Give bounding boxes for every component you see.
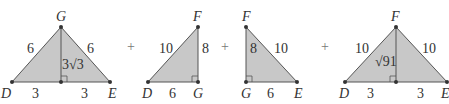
triangle-DGF: F D G 10 8 6 <box>141 9 209 101</box>
vertex-dot <box>10 80 14 84</box>
vertex-label-G: G <box>193 86 203 101</box>
vertex-label-D: D <box>0 86 11 101</box>
vertex-dot <box>244 25 248 29</box>
side-label-left: 10 <box>355 41 369 56</box>
triangle-DFE: F D E 10 10 √91 3 3 <box>338 9 449 101</box>
vertex-label-G: G <box>56 9 66 24</box>
triangle-DGE: G D E 6 6 3√3 3 3 <box>0 9 117 101</box>
side-label-left: 6 <box>27 41 34 56</box>
vertex-dot <box>394 80 398 84</box>
vertex-label-F: F <box>241 9 251 24</box>
plus-operator: + <box>321 39 329 54</box>
base-label: 6 <box>169 86 176 101</box>
vertex-label-D: D <box>141 86 152 101</box>
vertex-dot <box>343 80 347 84</box>
vertex-dot <box>196 80 200 84</box>
vertex-dot <box>196 25 200 29</box>
vertex-label-E: E <box>107 86 117 101</box>
vertex-dot <box>59 80 63 84</box>
vertex-label-E: E <box>440 86 449 101</box>
plus-operator: + <box>221 39 229 54</box>
vertex-label-F: F <box>192 9 202 24</box>
triangle-DGF-shape <box>148 27 198 82</box>
vertex-dot <box>244 80 248 84</box>
vertex-label-E: E <box>293 86 303 101</box>
vertex-dot <box>445 80 449 84</box>
triangle-FGE: F G E 8 10 6 <box>241 9 303 101</box>
vertex-label-D: D <box>338 86 349 101</box>
hypotenuse-label: 10 <box>159 41 173 56</box>
altitude-label: 3√3 <box>62 57 84 72</box>
vertex-dot <box>146 80 150 84</box>
hypotenuse-label: 10 <box>274 41 288 56</box>
vertical-side-label: 8 <box>202 41 209 56</box>
altitude-label: √91 <box>375 54 397 69</box>
vertex-dot <box>108 80 112 84</box>
base-label-right: 3 <box>417 86 424 101</box>
vertex-dot <box>59 25 63 29</box>
vertex-dot <box>394 25 398 29</box>
base-label: 6 <box>267 86 274 101</box>
vertex-dot <box>295 80 299 84</box>
vertical-side-label: 8 <box>250 41 257 56</box>
side-label-right: 6 <box>87 41 94 56</box>
base-label-left: 3 <box>367 86 374 101</box>
side-label-right: 10 <box>422 41 436 56</box>
base-label-right: 3 <box>81 86 88 101</box>
plus-operator: + <box>127 39 135 54</box>
vertex-label-F: F <box>390 9 400 24</box>
vertex-label-G: G <box>241 86 251 101</box>
triangle-sum-diagram: G D E 6 6 3√3 3 3 + F D G 10 8 6 + F G E… <box>0 0 449 104</box>
base-label-left: 3 <box>32 86 39 101</box>
